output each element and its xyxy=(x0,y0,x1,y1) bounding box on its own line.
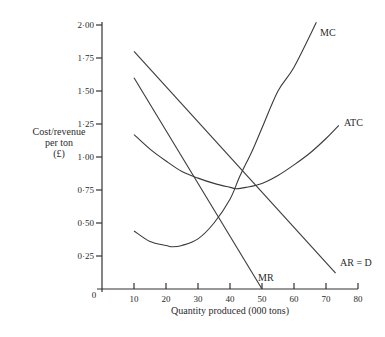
cost-revenue-chart: 0·250·500·751·001·251·501·752·00 0102030… xyxy=(0,0,385,337)
y-tick-label: 1·75 xyxy=(78,53,95,63)
x-ticks: 01020304050607080 xyxy=(92,283,363,304)
curves xyxy=(134,22,339,289)
y-tick-label: 1·00 xyxy=(78,152,95,162)
y-tick-label: 0·25 xyxy=(78,251,95,261)
mc-label: MC xyxy=(320,27,336,38)
ar-d-curve xyxy=(134,51,336,273)
y-tick-label: 0·75 xyxy=(78,185,95,195)
x-axis-title: Quantity produced (000 tons) xyxy=(171,305,289,317)
mr-curve xyxy=(134,78,262,289)
x-tick-label: 30 xyxy=(194,294,204,304)
y-tick-label: 0·50 xyxy=(78,218,95,228)
mr-label: MR xyxy=(258,272,274,283)
y-tick-label: 1·25 xyxy=(78,119,95,129)
x-tick-label: 0 xyxy=(92,290,97,300)
y-tick-label: 2·00 xyxy=(78,20,95,30)
x-tick-label: 20 xyxy=(162,294,172,304)
x-tick-label: 70 xyxy=(322,294,332,304)
curve-labels: MCATCAR = DMR xyxy=(258,27,372,283)
x-tick-label: 10 xyxy=(130,294,140,304)
x-tick-label: 50 xyxy=(258,294,268,304)
atc-curve xyxy=(134,125,339,188)
y-ticks: 0·250·500·751·001·251·501·752·00 xyxy=(78,20,103,261)
y-tick-label: 1·50 xyxy=(78,86,95,96)
atc-label: ATC xyxy=(344,117,363,128)
axes xyxy=(97,22,358,292)
x-tick-label: 40 xyxy=(226,294,236,304)
x-tick-label: 60 xyxy=(290,294,300,304)
mc-curve xyxy=(134,22,316,246)
x-tick-label: 80 xyxy=(354,294,364,304)
ar-d-label: AR = D xyxy=(340,257,372,268)
